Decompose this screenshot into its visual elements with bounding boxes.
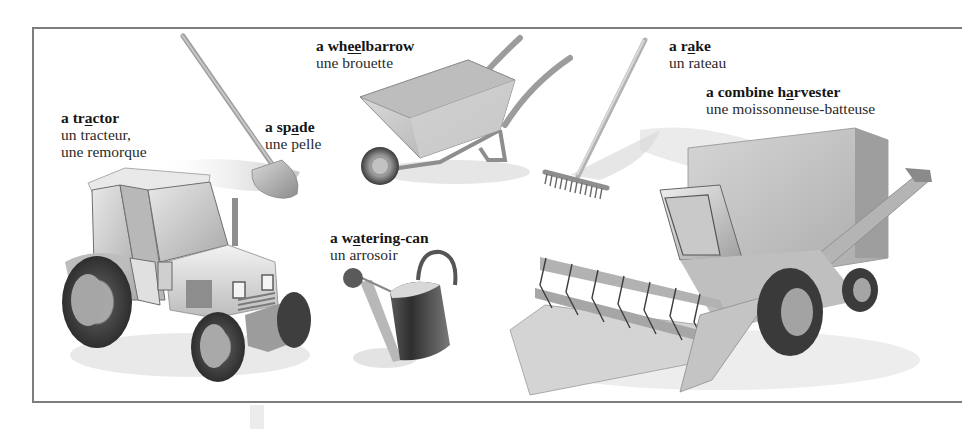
term-english: a tractor [61, 109, 147, 126]
label-combine-harvester: a combine harvester une moissonneuse-bat… [706, 83, 875, 117]
term-french: un tracteur, [61, 126, 147, 143]
term-french: un arrosoir [330, 246, 429, 263]
term-french: une pelle [265, 135, 321, 152]
label-tractor: a tractor un tracteur, une remorque [61, 109, 147, 160]
term-french: une remorque [61, 143, 147, 160]
label-wheelbarrow: a wheelbarrow une brouette [316, 37, 414, 71]
term-english: a rake [669, 37, 726, 54]
label-rake: a rake un rateau [669, 37, 726, 71]
term-english: a wheelbarrow [316, 37, 414, 54]
label-spade: a spade une pelle [265, 118, 321, 152]
term-french: un rateau [669, 54, 726, 71]
term-french: une moissonneuse-batteuse [706, 100, 875, 117]
term-english: a watering-can [330, 229, 429, 246]
term-english: a spade [265, 118, 321, 135]
term-english: a combine harvester [706, 83, 875, 100]
term-french: une brouette [316, 54, 414, 71]
label-watering-can: a watering-can un arrosoir [330, 229, 429, 263]
